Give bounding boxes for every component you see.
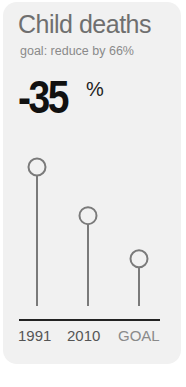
lollipop-marker — [29, 159, 46, 176]
x-label-1991: 1991 — [18, 327, 51, 344]
x-label-goal: GOAL — [118, 327, 160, 344]
lollipop-marker — [131, 250, 148, 267]
lollipop-marker — [80, 207, 97, 224]
x-label-2010: 2010 — [67, 327, 100, 344]
